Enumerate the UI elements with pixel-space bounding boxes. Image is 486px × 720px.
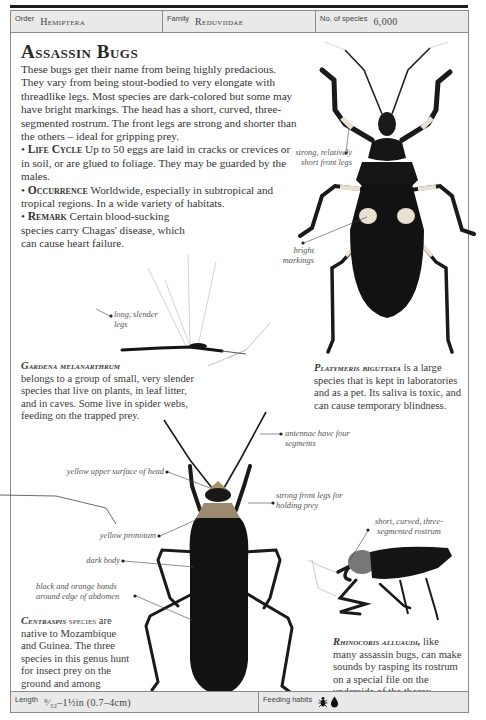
gardena-caption: Gardena melanarthrum belongs to a group … [21, 360, 199, 423]
label-yellow-pronotum: yellow pronotum [80, 531, 156, 541]
section-remark: • Remark Certain blood-sucking species c… [21, 210, 193, 250]
section-life-cycle: • Life Cycle Up to 50 eggs are laid in c… [21, 143, 301, 183]
label-abdomen-bands: black and orange bands around edge of ab… [36, 582, 132, 602]
species-name: Centraspis [21, 615, 66, 626]
species-name: Platymeris biguttata [314, 362, 401, 373]
centraspis-caption: Centraspis species are native to Mozambi… [21, 615, 133, 703]
insect-prey-icon [318, 696, 328, 708]
label-long-slender-legs: long, slender legs [114, 310, 164, 330]
intro-text-block: These bugs get their name from being hig… [21, 63, 301, 251]
label-dark-body: dark body [60, 556, 120, 566]
species-name-suffix: species [69, 615, 96, 626]
label-rostrum: short, curved, three-segmented rostrum [364, 517, 454, 537]
intro-paragraph: These bugs get their name from being hig… [21, 63, 301, 143]
label-antennae-four-segments: antennae have four segments [285, 429, 355, 449]
label-strong-front-legs-prey: strong front legs for holding prey [276, 491, 356, 511]
section-heading: Remark [28, 210, 67, 223]
centraspis-bug-illustration [146, 412, 292, 696]
length-label: Length [15, 695, 38, 704]
label-strong-front-legs: strong, relatively short front legs [282, 148, 352, 168]
info-footer: Length ⁹⁄₃₂–1½in (0.7–4cm) Feeding habit… [10, 691, 469, 713]
section-heading: Occurrence [28, 184, 88, 197]
caption-text: are native to Mozambique and Guinea. The… [21, 615, 129, 702]
length-value: ⁹⁄₃₂–1½in (0.7–4cm) [44, 697, 131, 708]
label-bright-markings: bright markings [274, 246, 314, 266]
rhinocoris-bug-illustration [308, 547, 452, 620]
species-name: Gardena melanarthrum [21, 360, 199, 373]
platymeris-bug-illustration [300, 42, 474, 352]
caption-text: belongs to a group of small, very slende… [21, 373, 194, 422]
page-title: Assassin Bugs [21, 41, 138, 63]
species-name: Rhinocoris alluaudi, [333, 636, 420, 647]
label-yellow-head: yellow upper surface of head [50, 467, 164, 477]
section-occurrence: • Occurrence Worldwide, especially in su… [21, 184, 283, 211]
length-cell: Length ⁹⁄₃₂–1½in (0.7–4cm) [11, 692, 259, 712]
section-heading: Life Cycle [28, 143, 83, 156]
rhinocoris-caption: Rhinocoris alluaudi, like many assassin … [333, 636, 465, 699]
feeding-habits-cell: Feeding habits [259, 692, 468, 712]
feeding-habits-label: Feeding habits [263, 695, 312, 704]
blood-drop-icon [330, 696, 339, 708]
platymeris-caption: Platymeris biguttata is a large species … [314, 362, 464, 412]
